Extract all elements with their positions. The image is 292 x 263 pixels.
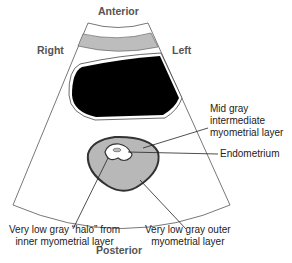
label-outer-layer: Very low gray outer myometrial layer (145, 224, 231, 248)
label-halo: Very low gray “halo” from inner myometri… (9, 224, 120, 248)
label-endometrium: Endometrium (220, 148, 279, 160)
label-left: Left (172, 44, 191, 56)
label-intermediate-layer: Mid gray intermediate myometrial layer (210, 103, 283, 139)
ultrasound-diagram: Anterior Right Left Posterior Mid gray i… (0, 0, 292, 263)
endometrium (113, 148, 121, 152)
label-anterior: Anterior (98, 5, 139, 17)
label-right: Right (37, 44, 64, 56)
